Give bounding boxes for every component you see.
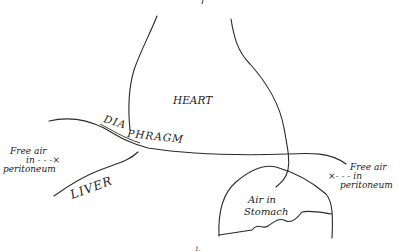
heart-label: HEART xyxy=(172,94,213,106)
heart-left-border xyxy=(129,16,157,130)
top-mark xyxy=(202,0,203,4)
chest-xray-diagram: HEART DIA PHRAGM LIVER Air in Stomach Fr… xyxy=(0,0,405,252)
heart-right-border xyxy=(231,19,289,187)
left-free-air-line3: peritoneum xyxy=(3,164,56,174)
right-free-air-line3: peritoneum xyxy=(340,180,393,190)
figure-number: 1. xyxy=(195,245,201,252)
stomach-label-line1: Air in xyxy=(247,194,276,205)
stomach-label-line2: Stomach xyxy=(244,206,288,217)
diaphragm-line xyxy=(49,119,346,164)
diaphragm-label-part1: DIA xyxy=(101,112,128,131)
liver-label: LIVER xyxy=(67,174,114,203)
diaphragm-label-part2: PHRAGM xyxy=(126,127,185,145)
